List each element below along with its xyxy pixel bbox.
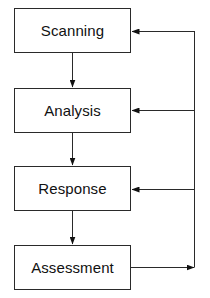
flowchart-diagram: Scanning Analysis Response Assessment	[0, 0, 210, 298]
node-analysis: Analysis	[14, 88, 131, 133]
node-label: Assessment	[31, 259, 114, 276]
node-label: Response	[38, 180, 106, 197]
node-scanning: Scanning	[14, 8, 131, 53]
node-label: Scanning	[41, 22, 104, 39]
node-response: Response	[14, 166, 131, 211]
node-label: Analysis	[44, 102, 101, 119]
node-assessment: Assessment	[14, 245, 131, 290]
